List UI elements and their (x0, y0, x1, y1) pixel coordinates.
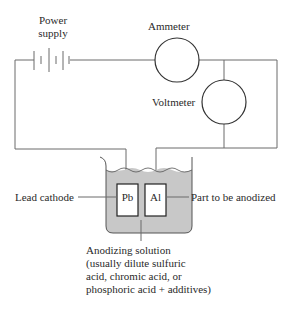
anode-symbol: Al (145, 191, 166, 204)
lead-cathode-label: Lead cathode (15, 191, 74, 204)
part-anodized-label: Part to be anodized (191, 191, 276, 204)
wire-left (15, 60, 34, 149)
solution-label-line1: Anodizing solution (86, 244, 211, 257)
ammeter-icon (155, 38, 199, 82)
battery-icon (34, 48, 69, 72)
power-supply-label-line2: supply (34, 27, 72, 40)
voltmeter-icon (202, 80, 246, 124)
solution-label-line4: phosphoric acid + additives) (86, 283, 211, 296)
ammeter-label: Ammeter (148, 20, 190, 33)
solution-label: Anodizing solution (usually dilute sulfu… (86, 244, 211, 296)
power-supply-label: Power supply (34, 14, 72, 40)
power-supply-label-line1: Power (34, 14, 72, 27)
voltmeter-label: Voltmeter (152, 96, 195, 109)
cathode-symbol: Pb (117, 191, 138, 204)
solution-label-line3: acid, chromic acid, or (86, 270, 211, 283)
solution-label-line2: (usually dilute sulfuric (86, 257, 211, 270)
wires (15, 60, 277, 184)
